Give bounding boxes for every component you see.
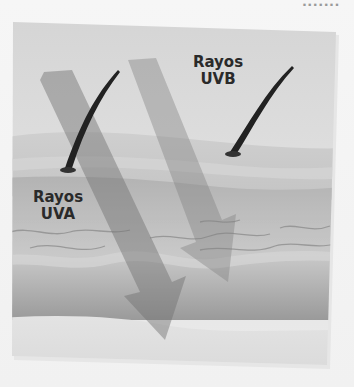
uva-label-line2: UVA [28,206,88,223]
uvb-label-line2: UVB [183,71,253,88]
uva-label-line1: Rayos [28,189,88,206]
follicle-left [60,167,76,173]
uvb-label: Rayos UVB [183,54,253,88]
page: ....... [0,0,354,387]
follicle-right [225,151,241,157]
uvb-label-line1: Rayos [183,54,253,71]
uva-label: Rayos UVA [28,189,88,223]
